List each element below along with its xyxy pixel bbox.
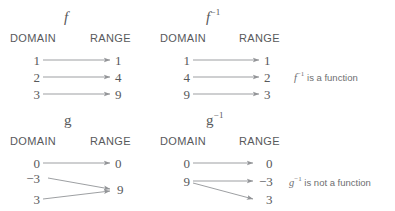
block-g-range-heading: RANGE	[90, 136, 131, 147]
block-f-inverse-domain-value-0: 1	[160, 54, 190, 67]
block-g-inverse-range-value-0: 0	[266, 157, 296, 170]
function-label-g-inverse-exponent: −1	[214, 110, 225, 120]
function-label-g-inverse-base: g	[206, 112, 214, 128]
function-label-f-inverse: f−1	[206, 8, 221, 25]
caption-g-inverse-is-not-a-function: g−1 is not a function	[289, 176, 371, 189]
function-label-g: g	[64, 111, 72, 128]
block-f-domain-heading: DOMAIN	[10, 33, 56, 44]
block-g-domain-value-1: −3	[8, 172, 40, 185]
function-label-f-inverse-exponent: −1	[210, 7, 221, 17]
block-f-inverse-range-value-0: 1	[264, 54, 294, 67]
block-f-range-value-1: 4	[115, 71, 145, 84]
block-g-inverse-range-value-1: −3	[259, 175, 293, 188]
block-f-inverse-range-value-1: 2	[264, 71, 294, 84]
caption-f-inverse-is-a-function: f−1 is a function	[294, 71, 358, 84]
arrows-block-f-inverse	[193, 60, 259, 94]
block-g-inverse-domain-heading: DOMAIN	[160, 136, 206, 147]
caption-g-inverse-symbol-exponent: −1	[294, 175, 301, 183]
block-g-inverse-range-value-2: 3	[266, 193, 296, 206]
block-f-inverse-range-heading: RANGE	[239, 33, 280, 44]
block-f-range-value-2: 9	[115, 88, 145, 101]
function-label-g-base: g	[64, 112, 72, 128]
block-g-inverse-domain-value-1: 9	[160, 175, 190, 188]
function-label-g-inverse: g−1	[206, 111, 224, 128]
caption-g-inverse-text: is not a function	[302, 177, 371, 188]
block-f-range-heading: RANGE	[90, 33, 131, 44]
block-g-range-value-0: 0	[115, 157, 145, 170]
block-g-domain-value-2: 3	[10, 193, 40, 206]
function-label-f: f	[64, 8, 68, 25]
block-f-domain-value-2: 3	[10, 88, 40, 101]
arrows-block-g	[43, 163, 110, 199]
arrows-block-f	[43, 60, 110, 94]
block-f-inverse-domain-heading: DOMAIN	[160, 33, 206, 44]
arrows-block-g-inverse	[193, 163, 253, 199]
block-f-inverse-domain-value-1: 4	[160, 71, 190, 84]
block-g-inverse-domain-value-0: 0	[160, 157, 190, 170]
block-f-range-value-0: 1	[115, 54, 145, 67]
block-f-domain-value-1: 2	[10, 71, 40, 84]
block-g-domain-value-0: 0	[10, 157, 40, 170]
block-f-inverse-domain-value-2: 9	[160, 88, 190, 101]
function-label-f-base: f	[64, 9, 68, 25]
caption-f-inverse-text: is a function	[304, 72, 357, 83]
block-g-domain-heading: DOMAIN	[10, 136, 56, 147]
block-f-inverse-range-value-2: 3	[264, 88, 294, 101]
block-g-range-value-1: 9	[117, 183, 147, 196]
block-g-inverse-range-heading: RANGE	[239, 136, 280, 147]
block-f-domain-value-0: 1	[10, 54, 40, 67]
